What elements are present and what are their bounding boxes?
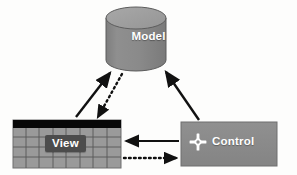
model-node[interactable] (106, 7, 166, 71)
edge-view-to-model (76, 73, 110, 117)
view-label: View (52, 137, 79, 149)
edge-control-to-model (166, 72, 199, 120)
model-cylinder-top (106, 7, 166, 29)
move-cross-icon (189, 133, 207, 151)
edge-model-to-view (98, 74, 122, 117)
view-table-header-row (13, 120, 121, 128)
mvc-diagram: Model View Control (0, 0, 297, 175)
view-label-chip: View (45, 135, 86, 152)
